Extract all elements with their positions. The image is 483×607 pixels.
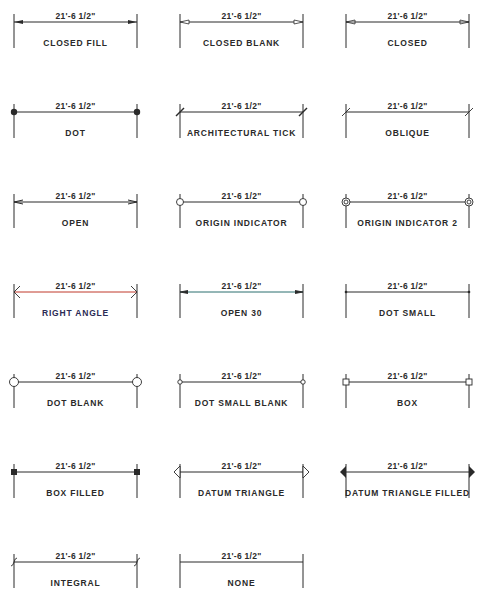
dimension-value: 21'-6 1/2" [55,11,95,21]
dimension-sample-arch-tick: 21'-6 1/2"ARCHITECTURAL TICK [180,104,340,194]
dimension-value: 21'-6 1/2" [55,281,95,291]
arrowhead-left-icon [180,20,189,24]
dimension-sample-dot-small-blank: 21'-6 1/2"DOT SMALL BLANK [180,374,340,464]
dimension-value: 21'-6 1/2" [387,11,427,21]
dimension-value: 21'-6 1/2" [55,101,95,111]
arrowhead-right-icon [134,469,140,475]
arrowhead-right-icon [468,291,471,294]
dimension-sample-open30: 21'-6 1/2"OPEN 30 [180,284,340,374]
style-label: ARCHITECTURAL TICK [187,128,296,138]
dimension-value: 21'-6 1/2" [221,11,261,21]
style-label: BOX [397,398,418,408]
style-label: DATUM TRIANGLE FILLED [345,488,470,498]
arrowhead-left-icon [177,199,184,206]
arrowhead-left-icon [14,20,23,24]
dimension-sample-box-filled: 21'-6 1/2"BOX FILLED [14,464,174,554]
arrowhead-right-icon [301,380,305,384]
dimension-sample-dot-small: 21'-6 1/2"DOT SMALL [346,284,483,374]
dimension-sample-box: 21'-6 1/2"BOX [346,374,483,464]
arrowhead-left-icon [10,378,19,387]
arrowhead-left-icon [180,291,188,294]
dimension-value: 21'-6 1/2" [387,371,427,381]
style-label: BOX FILLED [46,488,105,498]
arrowhead-right-icon [134,109,140,115]
style-label: CLOSED BLANK [203,38,280,48]
dimension-value: 21'-6 1/2" [387,191,427,201]
style-label: NONE [228,578,256,588]
dimension-sample-datum-filled: 21'-6 1/2"DATUM TRIANGLE FILLED [346,464,483,554]
arrowhead-left-icon [340,466,346,478]
arrowhead-right-icon [294,20,303,24]
dimension-value: 21'-6 1/2" [221,101,261,111]
dimension-value: 21'-6 1/2" [387,461,427,471]
dimension-sample-datum: 21'-6 1/2"DATUM TRIANGLE [180,464,340,554]
style-label: INTEGRAL [51,578,101,588]
style-label: DOT SMALL BLANK [195,398,289,408]
dimension-sample-origin: 21'-6 1/2"ORIGIN INDICATOR [180,194,340,284]
dimension-sample-closed: 21'-6 1/2"CLOSED [346,14,483,104]
dimension-value: 21'-6 1/2" [387,281,427,291]
arrowhead-left-icon [345,291,348,294]
arrowhead-styles-diagram: 21'-6 1/2"CLOSED FILL 21'-6 1/2"CLOSED B… [0,0,483,607]
style-label: ORIGIN INDICATOR [196,218,288,228]
style-label: OPEN 30 [221,308,263,318]
dimension-value: 21'-6 1/2" [221,281,261,291]
arrowhead-left-icon [178,380,182,384]
arrowhead-right-icon [460,20,469,24]
style-label: CLOSED FILL [43,38,108,48]
arrowhead-right-icon [133,378,142,387]
style-label: DOT BLANK [47,398,104,408]
dimension-sample-closed-blank: 21'-6 1/2"CLOSED BLANK [180,14,340,104]
style-label: OPEN [62,218,89,228]
arrowhead-left-icon [346,20,355,24]
dimension-value: 21'-6 1/2" [221,371,261,381]
arrowhead-right-icon [465,198,473,206]
arrowhead-left-icon [342,198,350,206]
arrowhead-left-icon [11,109,17,115]
dimension-sample-none: 21'-6 1/2"NONE [180,554,340,607]
dimension-sample-origin2: 21'-6 1/2"ORIGIN INDICATOR 2 [346,194,483,284]
arrowhead-right-icon [300,199,307,206]
dimension-value: 21'-6 1/2" [221,461,261,471]
style-label: RIGHT ANGLE [42,308,109,318]
dimension-sample-dot: 21'-6 1/2"DOT [14,104,174,194]
style-label: CLOSED [387,38,427,48]
dimension-value: 21'-6 1/2" [55,551,95,561]
style-label: OBLIQUE [385,128,429,138]
dimension-value: 21'-6 1/2" [387,101,427,111]
dimension-sample-integral: 21'-6 1/2"INTEGRAL [14,554,174,607]
style-label: DOT [65,128,85,138]
dimension-sample-right-angle: 21'-6 1/2"RIGHT ANGLE [14,284,174,374]
dimension-value: 21'-6 1/2" [55,191,95,201]
dimension-value: 21'-6 1/2" [221,551,261,561]
dimension-sample-dot-blank: 21'-6 1/2"DOT BLANK [14,374,174,464]
style-label: DOT SMALL [379,308,436,318]
dimension-value: 21'-6 1/2" [55,371,95,381]
dimension-sample-oblique: 21'-6 1/2"OBLIQUE [346,104,483,194]
arrowhead-right-icon [466,379,472,385]
arrowhead-right-icon [469,466,475,478]
dimension-value: 21'-6 1/2" [55,461,95,471]
style-label: DATUM TRIANGLE [198,488,285,498]
dimension-sample-closed-fill: 21'-6 1/2"CLOSED FILL [14,14,174,104]
style-label: ORIGIN INDICATOR 2 [357,218,458,228]
arrowhead-left-icon [11,469,17,475]
arrowhead-right-icon [295,291,303,294]
dimension-value: 21'-6 1/2" [221,191,261,201]
dimension-sample-open: 21'-6 1/2"OPEN [14,194,174,284]
arrowhead-left-icon [174,466,180,478]
arrowhead-left-icon [343,379,349,385]
arrowhead-right-icon [128,20,137,24]
arrowhead-right-icon [303,466,309,478]
